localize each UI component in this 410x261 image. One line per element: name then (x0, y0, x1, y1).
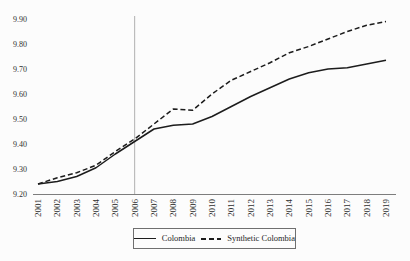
legend-label-synthetic-colombia: Synthetic Colombia (227, 234, 295, 244)
legend-label-colombia: Colombia (162, 234, 196, 244)
dashed-line-swatch (201, 238, 221, 240)
x-tick-label: 2005 (110, 199, 120, 218)
y-tick-label: 9.90 (13, 15, 27, 24)
synthetic-colombia-line (38, 22, 386, 185)
y-tick-label: 9.60 (13, 90, 27, 99)
x-tick-label: 2003 (72, 199, 82, 218)
x-tick-label: 2010 (207, 199, 217, 218)
y-tick-label: 9.70 (13, 65, 27, 74)
x-tick-label: 2009 (188, 199, 198, 218)
x-tick-label: 2019 (381, 199, 391, 218)
line-chart-figure: 9.209.309.409.509.609.709.809.9020012002… (0, 0, 410, 261)
chart-plot-area: 9.209.309.409.509.609.709.809.9020012002… (0, 0, 410, 261)
x-tick-label: 2018 (362, 199, 372, 218)
solid-line-swatch (134, 238, 156, 239)
y-tick-label: 9.80 (13, 40, 27, 49)
y-tick-label: 9.20 (13, 190, 27, 199)
y-tick-label: 9.40 (13, 140, 27, 149)
x-tick-label: 2004 (91, 199, 101, 218)
x-tick-label: 2017 (342, 199, 352, 218)
colombia-line (38, 60, 386, 184)
x-tick-label: 2013 (265, 199, 275, 218)
x-tick-label: 2001 (33, 199, 43, 217)
x-tick-label: 2012 (246, 199, 256, 217)
x-tick-label: 2002 (52, 199, 62, 217)
x-tick-label: 2006 (130, 199, 140, 218)
x-tick-label: 2014 (284, 199, 294, 218)
x-tick-label: 2008 (168, 199, 178, 218)
x-tick-label: 2016 (323, 199, 333, 218)
x-tick-label: 2007 (149, 199, 159, 218)
x-tick-label: 2011 (226, 199, 236, 217)
x-tick-label: 2015 (304, 199, 314, 218)
chart-legend: Colombia Synthetic Colombia (133, 228, 296, 249)
y-tick-label: 9.50 (13, 115, 27, 124)
y-tick-label: 9.30 (13, 165, 27, 174)
